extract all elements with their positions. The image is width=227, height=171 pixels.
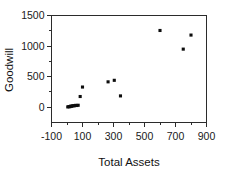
data-point	[77, 104, 80, 107]
x-tick-label: -100	[41, 130, 62, 142]
x-tick-label: 300	[105, 130, 123, 142]
axis-ticks	[47, 16, 207, 128]
axis-tick-labels: 050010001500-100100300500700900	[21, 9, 215, 141]
y-tick-label: 500	[27, 70, 45, 82]
data-point	[79, 95, 82, 98]
x-axis-title: Total Assets	[98, 156, 160, 168]
data-points	[66, 29, 192, 109]
y-tick-label: 1500	[21, 9, 45, 21]
y-axis-title: Goodwill	[3, 48, 15, 92]
data-point	[107, 80, 110, 83]
y-tick-label: 0	[39, 101, 45, 113]
y-tick-label: 1000	[21, 40, 45, 52]
x-tick-label: 700	[167, 130, 185, 142]
data-point	[189, 34, 192, 37]
x-tick-label: 100	[74, 130, 92, 142]
data-point	[113, 79, 116, 82]
x-tick-label: 900	[198, 130, 216, 142]
data-point	[158, 29, 161, 32]
scatter-chart-figure: 050010001500-100100300500700900 Total As…	[0, 0, 227, 171]
plot-canvas: 050010001500-100100300500700900 Total As…	[0, 0, 227, 171]
data-point	[81, 85, 84, 88]
data-point	[119, 94, 122, 97]
data-point	[182, 48, 185, 51]
x-tick-label: 500	[136, 130, 154, 142]
